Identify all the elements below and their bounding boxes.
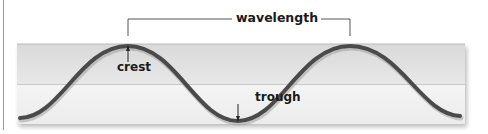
trough-label: trough	[255, 91, 301, 103]
crest-label: crest	[117, 61, 151, 73]
wavelength-bracket-left	[128, 19, 232, 36]
panel-upper-band	[17, 44, 465, 85]
panel-lower-band	[17, 85, 465, 124]
wavelength-label: wavelength	[233, 12, 321, 25]
wavelength-bracket-right	[318, 19, 350, 36]
